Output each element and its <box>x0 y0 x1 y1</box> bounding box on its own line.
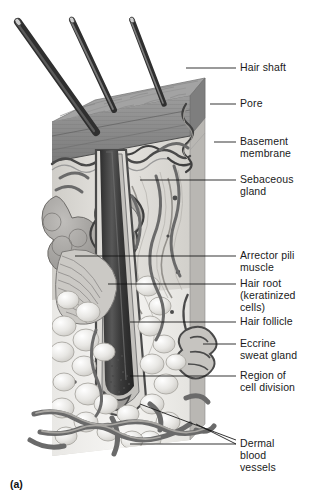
label-hair-root: Hair root (keratinized cells) <box>240 278 296 313</box>
label-eccrine-sweat-gland: Eccrine sweat gland <box>240 338 297 362</box>
label-basement-membrane: Basement membrane <box>240 136 291 160</box>
skin-cross-section-figure: Hair shaftPoreBasement membraneSebaceous… <box>0 0 315 495</box>
label-dermal-blood-vessels: Dermal blood vessels <box>240 438 276 473</box>
label-hair-shaft: Hair shaft <box>240 62 286 74</box>
skin-illustration <box>0 0 315 495</box>
label-sebaceous-gland: Sebaceous gland <box>240 174 294 198</box>
label-pore: Pore <box>240 98 263 110</box>
label-hair-follicle: Hair follicle <box>240 316 293 328</box>
figure-caption: (a) <box>10 478 23 490</box>
label-arrector-pili: Arrector pili muscle <box>240 250 294 274</box>
label-region-cell-division: Region of cell division <box>240 370 295 394</box>
